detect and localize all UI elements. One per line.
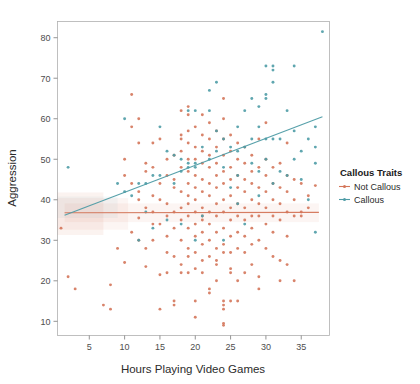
- data-point: [257, 275, 260, 278]
- data-point: [215, 263, 218, 266]
- data-point: [272, 215, 275, 218]
- data-point: [123, 158, 126, 161]
- data-point: [264, 65, 267, 68]
- data-point: [236, 186, 239, 189]
- legend-key-point: [343, 185, 346, 188]
- data-point: [300, 215, 303, 218]
- data-point: [250, 170, 253, 173]
- data-point: [229, 166, 232, 169]
- data-point: [236, 174, 239, 177]
- data-point: [123, 117, 126, 120]
- data-point: [187, 109, 190, 112]
- data-point: [279, 202, 282, 205]
- data-point: [236, 202, 239, 205]
- data-point: [286, 190, 289, 193]
- data-point: [229, 186, 232, 189]
- data-point: [236, 150, 239, 153]
- data-point: [201, 271, 204, 274]
- data-point: [208, 154, 211, 157]
- data-point: [208, 255, 211, 258]
- data-point: [229, 219, 232, 222]
- data-point: [166, 202, 169, 205]
- legend-item-not-callous[interactable]: Not Callous: [339, 181, 401, 192]
- data-point: [187, 162, 190, 165]
- data-point: [166, 219, 169, 222]
- y-tick-label: 70: [40, 74, 50, 84]
- data-point: [201, 146, 204, 149]
- data-point: [180, 158, 183, 161]
- data-point: [222, 97, 225, 100]
- data-point: [166, 251, 169, 254]
- data-point: [264, 223, 267, 226]
- y-tick-label: 40: [40, 195, 50, 205]
- data-point: [250, 215, 253, 218]
- data-point: [144, 206, 147, 209]
- data-point: [187, 113, 190, 116]
- y-axis-title: Aggression: [6, 149, 18, 207]
- data-point: [215, 150, 218, 153]
- y-tick-label: 80: [40, 33, 50, 43]
- legend-item-callous[interactable]: Callous: [339, 194, 385, 205]
- data-point: [257, 125, 260, 128]
- data-point: [173, 182, 176, 185]
- data-point: [130, 182, 133, 185]
- data-point: [151, 166, 154, 169]
- data-point: [187, 158, 190, 161]
- data-point: [272, 69, 275, 72]
- data-point: [215, 174, 218, 177]
- data-point: [236, 231, 239, 234]
- data-point: [201, 206, 204, 209]
- x-tick-label: 5: [87, 342, 92, 352]
- data-point: [243, 109, 246, 112]
- data-point: [222, 117, 225, 120]
- data-point: [180, 134, 183, 137]
- data-point: [243, 235, 246, 238]
- data-point: [201, 113, 204, 116]
- data-point: [222, 308, 225, 311]
- data-point: [208, 292, 211, 295]
- y-tick-label: 20: [40, 276, 50, 286]
- data-point: [257, 239, 260, 242]
- data-point: [201, 219, 204, 222]
- data-point: [229, 146, 232, 149]
- y-axis: 1020304050607080: [40, 33, 57, 327]
- data-point: [300, 178, 303, 181]
- data-point: [272, 65, 275, 68]
- y-tick-label: 30: [40, 236, 50, 246]
- data-point: [208, 121, 211, 124]
- data-point: [222, 182, 225, 185]
- data-point: [243, 251, 246, 254]
- data-point: [109, 308, 112, 311]
- data-point: [116, 182, 119, 185]
- data-point: [293, 279, 296, 282]
- data-point: [314, 125, 317, 128]
- data-point: [272, 81, 275, 84]
- data-point: [272, 198, 275, 201]
- data-point: [180, 206, 183, 209]
- data-point: [279, 170, 282, 173]
- data-point: [243, 223, 246, 226]
- data-point: [243, 219, 246, 222]
- data-point: [194, 186, 197, 189]
- data-point: [222, 227, 225, 230]
- data-point: [194, 109, 197, 112]
- data-point: [201, 150, 204, 153]
- data-point: [151, 174, 154, 177]
- data-point: [158, 125, 161, 128]
- data-point: [286, 235, 289, 238]
- legend-key-point: [343, 198, 346, 201]
- data-point: [187, 247, 190, 250]
- data-point: [229, 194, 232, 197]
- data-point: [144, 247, 147, 250]
- x-axis: 5101520253035: [87, 336, 306, 352]
- data-point: [272, 166, 275, 169]
- x-tick-label: 30: [261, 342, 271, 352]
- data-point: [130, 231, 133, 234]
- data-point: [166, 158, 169, 161]
- data-point: [187, 271, 190, 274]
- data-point: [208, 166, 211, 169]
- data-point: [279, 279, 282, 282]
- data-point: [264, 206, 267, 209]
- data-point: [137, 190, 140, 193]
- data-point: [215, 279, 218, 282]
